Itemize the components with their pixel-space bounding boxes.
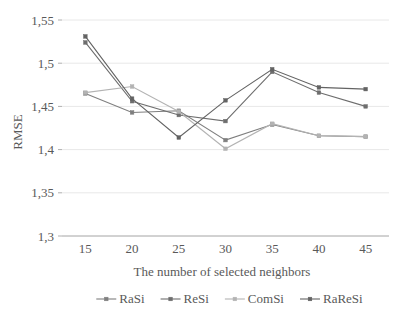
x-tick-label: 35 [266,241,279,256]
data-point-marker [130,85,134,89]
legend-item-label: RaSi [119,291,145,306]
y-axis-title: RMSE [10,114,25,149]
series-line-resi [85,42,365,121]
y-tick-label: 1,4 [38,142,55,157]
data-point-marker [317,134,321,138]
x-tick-label: 30 [219,241,232,256]
data-point-marker [270,67,274,71]
data-point-marker [317,86,321,90]
y-tick-label: 1,5 [38,56,54,71]
x-tick-label: 45 [359,241,372,256]
x-tick-label: 25 [172,241,185,256]
data-point-marker [270,122,274,126]
data-point-marker [130,97,134,101]
x-tick-label: 20 [126,241,139,256]
legend-marker-swatch [308,297,312,301]
y-axis-tick-labels: 1,31,351,41,451,51,55 [31,13,54,244]
legend-item-comsi[interactable]: ComSi [225,291,285,306]
data-point-marker [224,119,228,123]
legend-item-label: RaReSi [323,291,363,306]
y-tick-label: 1,55 [31,13,54,28]
legend-marker-swatch [233,297,237,301]
x-axis-tick-labels: 15202530354045 [79,241,372,256]
data-point-marker [177,113,181,117]
legend-item-label: ComSi [248,291,285,306]
data-point-marker [317,91,321,95]
data-point-marker [224,99,228,103]
data-point-marker [364,87,368,91]
x-tick-label: 15 [79,241,92,256]
y-tick-label: 1,45 [31,99,54,114]
y-tick-label: 1,3 [38,229,54,244]
data-point-marker [130,111,134,115]
axis-lines [58,20,389,236]
data-point-marker [177,110,181,114]
data-point-marker [364,135,368,139]
y-tick-label: 1,35 [31,185,54,200]
legend-item-label: ReSi [184,291,210,306]
data-point-marker [84,91,88,95]
data-series-layer [84,35,368,151]
chart-container: 1,31,351,41,451,51,55 15202530354045 RaS… [0,0,401,322]
data-point-marker [84,35,88,39]
legend-item-resi[interactable]: ReSi [161,291,210,306]
legend-item-rasi[interactable]: RaSi [96,291,145,306]
data-point-marker [224,138,228,142]
legend-marker-swatch [104,297,108,301]
x-tick-label: 40 [312,241,325,256]
legend-item-raresi[interactable]: RaReSi [300,291,363,306]
chart-legend: RaSiReSiComSiRaReSi [96,291,363,306]
data-point-marker [84,41,88,45]
legend-marker-swatch [169,297,173,301]
data-point-marker [224,147,228,151]
line-chart: 1,31,351,41,451,51,55 15202530354045 RaS… [0,0,401,322]
data-point-marker [364,105,368,109]
gridlines [62,20,389,236]
x-axis-title: The number of selected neighbors [134,264,311,279]
data-point-marker [177,136,181,140]
